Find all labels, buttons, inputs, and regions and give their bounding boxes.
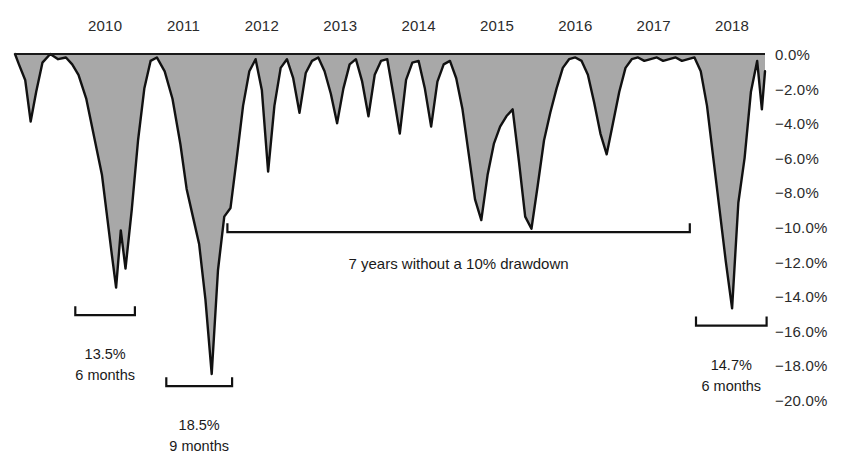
annotation-label-drawdown-2011-line1: 18.5% (179, 417, 220, 433)
y-axis-tick-label--20: −20.0% (775, 392, 828, 409)
drawdown-area-fill (15, 54, 765, 374)
bracket-no-10pct-drawdown-span (227, 223, 689, 232)
bracket-drawdown-2010 (75, 306, 135, 315)
annotation-label-drawdown-2011-line2: 9 months (169, 438, 229, 454)
y-axis-tick-label--10: −10.0% (775, 219, 828, 236)
y-axis-tick-label--18: −18.0% (775, 357, 828, 374)
annotation-label-drawdown-2010-line2: 6 months (75, 367, 135, 383)
y-axis-tick-label--6: −6.0% (775, 149, 819, 166)
annotation-label-drawdown-2018-line2: 6 months (701, 378, 761, 394)
y-axis-tick-label--14: −14.0% (775, 288, 828, 305)
annotation-label-no-10pct-drawdown-span-line1: 7 years without a 10% drawdown (349, 255, 569, 272)
annotation-label-drawdown-2018-line1: 14.7% (711, 357, 752, 373)
y-axis-tick-label--4: −4.0% (775, 115, 819, 132)
y-axis-tick-label--12: −12.0% (775, 253, 828, 270)
y-axis-tick-label--16: −16.0% (775, 322, 828, 339)
y-axis-tick-label--2: −2.0% (775, 80, 819, 97)
bracket-drawdown-2011 (166, 377, 232, 386)
bracket-drawdown-2018 (696, 317, 767, 326)
y-axis-tick-label--8: −8.0% (775, 184, 819, 201)
y-axis-tick-label-0: 0.0% (775, 46, 810, 63)
annotation-label-drawdown-2010-line1: 13.5% (85, 346, 126, 362)
